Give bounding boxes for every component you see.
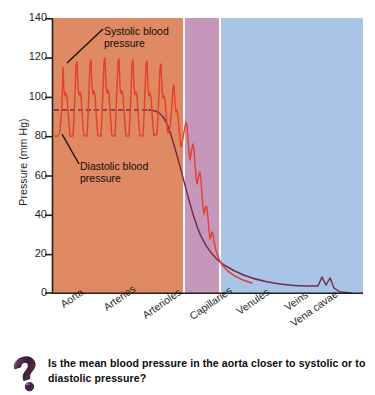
systolic-annotation: Systolic blood pressure	[104, 25, 169, 49]
question-text: Is the mean blood pressure in the aorta …	[48, 356, 368, 385]
y-tick-80: 80	[3, 130, 47, 141]
plot-regions	[52, 18, 363, 293]
y-tick-120: 120	[3, 51, 47, 62]
y-tick-60: 60	[3, 170, 47, 181]
y-tick-100: 100	[3, 91, 47, 102]
region-venous	[221, 18, 363, 293]
diastolic-annotation: Diastolic blood pressure	[80, 160, 148, 184]
question-mark-icon	[8, 354, 48, 394]
y-tick-0: 0	[3, 287, 47, 298]
y-tick-140: 140	[3, 12, 47, 23]
blood-pressure-figure: Pressure (mm Hg) 140 120 100 80 60 40 20…	[0, 0, 375, 395]
question-block: Is the mean blood pressure in the aorta …	[0, 352, 375, 395]
region-divider-2	[219, 18, 221, 293]
y-axis-tick-labels: 140 120 100 80 60 40 20 0	[0, 0, 47, 348]
region-divider-1	[183, 18, 185, 293]
y-tick-40: 40	[3, 209, 47, 220]
y-tick-20: 20	[3, 248, 47, 259]
